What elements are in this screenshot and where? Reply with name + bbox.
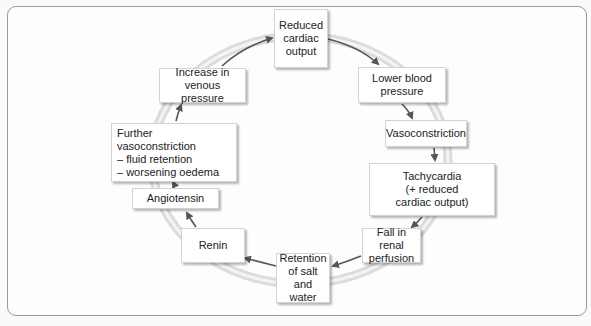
node-reduced-cardiac-output: Reduced cardiac output (274, 9, 328, 68)
node-lower-blood-pressure: Lower blood pressure (358, 67, 446, 103)
node-fall-in-renal-perfusion: Fall in renal perfusion (362, 228, 421, 263)
node-angiotensin: Angiotensin (132, 188, 219, 209)
node-further-vasoconstriction: Further vasoconstriction – fluid retenti… (111, 123, 237, 182)
node-increase-venous-pressure: Increase in venous pressure (159, 68, 246, 103)
node-vasoconstriction: Vasoconstriction (385, 120, 467, 147)
node-renin: Renin (181, 228, 245, 263)
node-tachycardia: Tachycardia (+ reduced cardiac output) (369, 163, 495, 216)
node-retention-salt-water: Retention of salt and water (276, 253, 330, 303)
